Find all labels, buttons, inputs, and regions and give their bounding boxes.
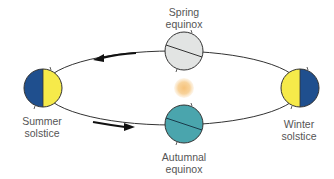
top-arrow-icon (93, 53, 136, 62)
label-line: equinox (166, 18, 203, 30)
label-line: Spring (166, 6, 203, 18)
label-line: Autumnal (162, 151, 206, 163)
label-line: solstice (281, 130, 316, 142)
summer-solstice-globe (24, 67, 62, 109)
label-line: Summer (22, 115, 62, 127)
label-line: Winter (281, 118, 316, 130)
label-line: equinox (162, 163, 206, 175)
winter-solstice-globe (281, 67, 319, 109)
spring-equinox-globe (165, 30, 203, 72)
label-line: solstice (22, 127, 62, 139)
label-autumnal-equinox: Autumnal equinox (162, 151, 206, 175)
label-spring-equinox: Spring equinox (166, 6, 203, 30)
sun (174, 78, 194, 98)
autumnal-equinox-globe (165, 103, 203, 145)
label-winter-solstice: Winter solstice (281, 118, 316, 142)
label-summer-solstice: Summer solstice (22, 115, 62, 139)
